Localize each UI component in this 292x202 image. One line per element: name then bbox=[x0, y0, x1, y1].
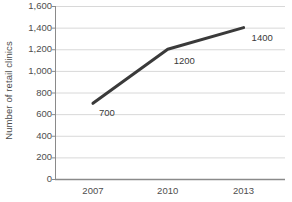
data-point-label: 1400 bbox=[252, 32, 273, 43]
data-point-label: 1200 bbox=[174, 55, 195, 66]
series-line-retail-clinics bbox=[93, 28, 244, 104]
gridlines bbox=[55, 7, 285, 158]
plot-area: 70012001400 bbox=[0, 0, 292, 202]
y-axis-tick-marks bbox=[52, 7, 55, 180]
line-chart: Number of retail clinics 02004006008001,… bbox=[0, 0, 292, 202]
data-point-label: 700 bbox=[99, 107, 115, 118]
